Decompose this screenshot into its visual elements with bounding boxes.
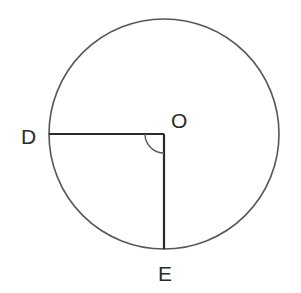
geometry-canvas xyxy=(0,0,301,293)
point-label-e: E xyxy=(158,263,172,284)
geometry-figure: D O E xyxy=(0,0,301,293)
point-label-d: D xyxy=(21,126,36,147)
right-angle-arc-icon xyxy=(145,134,164,153)
point-label-o: O xyxy=(171,110,187,131)
